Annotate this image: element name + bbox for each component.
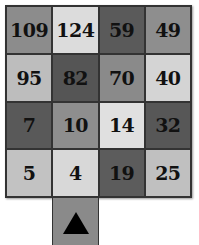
grid-cell[interactable]: 70 xyxy=(99,54,145,102)
grid-cell[interactable]: 10 xyxy=(52,102,98,150)
grid-cell[interactable]: 40 xyxy=(145,54,191,102)
grid-cell[interactable]: 49 xyxy=(145,6,191,54)
up-triangle-icon xyxy=(63,212,89,234)
grid-cell[interactable]: 95 xyxy=(6,54,52,102)
grid-cell[interactable]: 109 xyxy=(6,6,52,54)
grid-cell[interactable]: 25 xyxy=(145,149,191,197)
grid-cell[interactable]: 82 xyxy=(52,54,98,102)
start-tile[interactable] xyxy=(52,198,99,245)
grid-cell[interactable]: 4 xyxy=(52,149,98,197)
grid-cell[interactable]: 59 xyxy=(99,6,145,54)
grid-cell[interactable]: 5 xyxy=(6,149,52,197)
grid-cell[interactable]: 124 xyxy=(52,6,98,54)
grid-cell[interactable]: 32 xyxy=(145,102,191,150)
grid-cell[interactable]: 19 xyxy=(99,149,145,197)
grid-cell[interactable]: 14 xyxy=(99,102,145,150)
grid-cell[interactable]: 7 xyxy=(6,102,52,150)
number-grid: 1091245949958270407101432541925 xyxy=(5,5,192,198)
